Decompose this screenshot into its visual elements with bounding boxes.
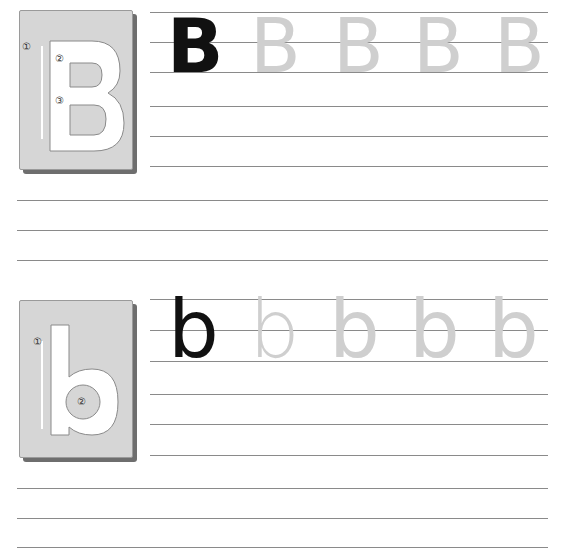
card-face: ① ② bbox=[19, 300, 133, 458]
stroke-label-1: ① bbox=[22, 41, 31, 52]
rule-line bbox=[17, 488, 548, 489]
rule-line bbox=[150, 136, 548, 137]
rule-line bbox=[150, 455, 548, 456]
letter-card-uppercase: ① ② ③ bbox=[17, 8, 139, 176]
trace-letter: B bbox=[333, 9, 384, 83]
rule-line bbox=[150, 166, 548, 167]
letter-card-lowercase: ① ② bbox=[17, 298, 139, 464]
rule-line bbox=[150, 424, 548, 425]
stroke-label-2: ② bbox=[77, 396, 86, 407]
card-face: ① ② ③ bbox=[19, 10, 133, 170]
trace-letter: B bbox=[250, 9, 301, 83]
trace-letter: b bbox=[329, 290, 380, 370]
trace-letter: B bbox=[413, 9, 464, 83]
rule-line bbox=[150, 394, 548, 395]
trace-letter: B bbox=[494, 9, 545, 83]
trace-letter: b bbox=[249, 290, 300, 370]
model-letter-lowercase: b bbox=[168, 290, 219, 370]
rule-line bbox=[17, 260, 548, 261]
rule-line bbox=[17, 230, 548, 231]
model-letter-uppercase: B bbox=[167, 9, 223, 83]
stroke-label-3: ③ bbox=[55, 95, 64, 106]
trace-letter: b bbox=[488, 290, 539, 370]
stroke-label-2: ② bbox=[55, 53, 64, 64]
stroke-guide-uppercase-b-icon bbox=[20, 11, 132, 169]
stroke-guide-lowercase-b-icon bbox=[20, 301, 132, 457]
rule-line bbox=[17, 518, 548, 519]
rule-line bbox=[17, 547, 548, 548]
rule-line bbox=[150, 106, 548, 107]
rule-line bbox=[17, 200, 548, 201]
trace-letter: b bbox=[409, 290, 460, 370]
stroke-label-1: ① bbox=[33, 336, 42, 347]
